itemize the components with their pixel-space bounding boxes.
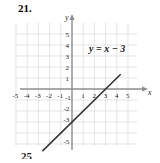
figure-page: 21. xyxy=(0,0,160,163)
y-tick-label: -2 xyxy=(64,105,70,113)
x-tick-label: 3 xyxy=(104,92,108,100)
x-tick-label: 1 xyxy=(81,92,85,100)
x-tick-label: 5 xyxy=(126,92,130,100)
next-problem-number: 25 xyxy=(21,151,32,159)
coordinate-graph: x y -5 -4 -3 -2 -1 1 2 3 4 5 5 4 3 2 1 -… xyxy=(0,0,160,163)
x-tick-label: -2 xyxy=(46,92,52,100)
equation-label: y = x − 3 xyxy=(89,43,125,54)
y-tick-label: 2 xyxy=(66,64,70,72)
y-tick-label: -3 xyxy=(64,116,70,124)
y-axis-label: y xyxy=(64,13,69,22)
y-tick-label: 4 xyxy=(66,42,70,50)
x-tick-label: 4 xyxy=(115,92,119,100)
y-tick-label: 5 xyxy=(66,31,70,39)
y-tick-label: 1 xyxy=(66,75,70,83)
x-tick-label: -3 xyxy=(35,92,41,100)
plot-line xyxy=(43,75,120,151)
x-tick-label: -5 xyxy=(13,92,19,100)
x-tick-label: -1 xyxy=(57,92,63,100)
y-tick-label: -1 xyxy=(65,94,71,102)
y-tick-label: 3 xyxy=(66,53,70,61)
y-tick-label: -5 xyxy=(64,138,70,146)
x-tick-label: -4 xyxy=(24,92,30,100)
y-axis-arrow xyxy=(69,14,74,20)
x-axis-label: x xyxy=(147,88,152,97)
